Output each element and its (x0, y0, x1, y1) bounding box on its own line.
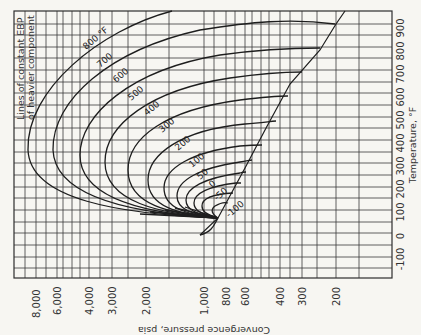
curve-700 (53, 21, 335, 218)
y-tick-700: 700 (395, 64, 406, 83)
boundary-line (200, 11, 345, 235)
y-tick-200: 200 (395, 179, 406, 198)
plot-frame (14, 11, 392, 278)
x-tick-6000: 6,000 (52, 286, 63, 315)
curve-label-0: 0 (207, 178, 218, 190)
x-tick-400: 400 (275, 287, 286, 306)
y-tick-800: 800 (395, 41, 406, 60)
y-tick-600: 600 (395, 87, 406, 106)
x-tick-8000: 8,000 (31, 289, 42, 318)
y-tick-400: 400 (395, 133, 406, 152)
ebp-curves (28, 11, 335, 235)
convergence-pressure-chart: 800 °F 700 600 500 400 300 200 100 50 0 … (0, 0, 421, 335)
y-tick-900: 900 (395, 18, 406, 37)
x-axis-title: Convergence pressure, psia (138, 325, 270, 335)
x-tick-800: 800 (221, 287, 232, 306)
vertical-grid (25, 11, 359, 278)
y-tick-m100: -100 (395, 248, 406, 271)
curve-label-400: 400 (142, 99, 162, 118)
y-tick-500: 500 (395, 110, 406, 129)
curve-label-300: 300 (157, 116, 177, 135)
y-axis-ticks: -100 0 100 200 300 400 500 600 700 800 9… (395, 18, 406, 270)
x-tick-4000: 4,000 (84, 286, 95, 315)
curve-300 (148, 121, 276, 218)
x-tick-3000: 3,000 (107, 286, 118, 315)
x-tick-2000: 2,000 (141, 286, 152, 315)
y-tick-300: 300 (395, 156, 406, 175)
curve-label-800: 800 °F (81, 25, 110, 52)
annotation-line2: of heavier component (25, 15, 36, 120)
y-tick-0: 0 (395, 233, 406, 239)
x-tick-1000: 1,000 (199, 286, 210, 315)
x-tick-300: 300 (297, 287, 308, 306)
y-axis-title: Temperature, °F (407, 107, 418, 184)
annotation: Lines of constant EBP of heavier compone… (15, 15, 36, 120)
x-tick-600: 600 (240, 287, 251, 306)
y-tick-100: 100 (395, 202, 406, 221)
x-tick-200: 200 (331, 287, 342, 306)
x-axis-ticks: 8,000 6,000 4,000 3,000 2,000 1,000 800 … (31, 286, 342, 318)
